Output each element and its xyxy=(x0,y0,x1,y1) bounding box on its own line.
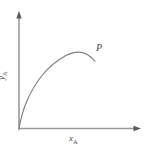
y-axis-label-variable: y xyxy=(0,76,6,80)
y-axis-label-subscript: A xyxy=(1,71,8,76)
x-axis-label: xA xyxy=(69,134,78,145)
plot-figure: xA yA P xyxy=(0,0,154,154)
x-axis-label-subscript: A xyxy=(73,138,78,145)
plot-canvas xyxy=(0,0,154,154)
y-axis-arrowhead-icon xyxy=(16,11,21,19)
point-p-label: P xyxy=(96,43,102,53)
x-axis-arrowhead-icon xyxy=(134,126,142,131)
y-axis-label: yA xyxy=(0,71,8,80)
equilibrium-curve xyxy=(19,52,95,128)
